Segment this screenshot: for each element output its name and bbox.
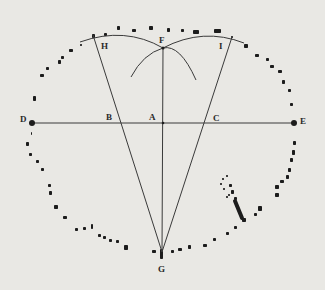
stone-marker	[255, 54, 259, 57]
label-i: I	[219, 41, 223, 51]
inner-stone-marker	[228, 194, 230, 196]
stone-marker	[116, 240, 119, 243]
stone-marker	[254, 213, 257, 216]
stone-circle-diagram: ABCDEFGHI	[0, 0, 325, 290]
stone-marker	[278, 70, 282, 73]
stone-marker	[226, 232, 229, 235]
stone-marker	[244, 44, 248, 48]
stone-marker	[91, 224, 93, 229]
stone-marker	[213, 238, 216, 241]
inner-stone-marker	[226, 175, 228, 177]
stone-marker	[275, 185, 279, 189]
stone-marker	[290, 158, 293, 162]
label-g: G	[158, 264, 165, 274]
stone-marker	[167, 28, 170, 32]
stone-marker	[63, 216, 67, 219]
stone-marker	[31, 132, 32, 135]
point-e-dot	[291, 120, 297, 126]
stone-marker	[214, 29, 221, 33]
stone-marker	[288, 89, 291, 92]
stone-marker	[286, 175, 289, 179]
stone-marker	[33, 96, 36, 101]
stone-marker	[290, 103, 293, 106]
arc-cross	[131, 48, 196, 80]
inner-stone-marker	[222, 178, 224, 180]
stone-marker	[54, 205, 58, 209]
point-f-dot	[162, 47, 165, 50]
stone-marker	[48, 184, 51, 187]
stone-marker	[293, 141, 296, 145]
stone-marker	[266, 58, 269, 61]
line-HG	[93, 35, 162, 252]
stone-marker	[117, 26, 120, 30]
stone-marker	[171, 250, 174, 253]
stone-marker	[275, 193, 279, 197]
stone-marker	[181, 29, 184, 32]
stone-marker	[58, 60, 61, 64]
stone-marker	[26, 142, 29, 146]
stone-marker	[292, 150, 295, 155]
stone-marker	[188, 245, 191, 249]
stone-marker	[41, 168, 44, 171]
stone-marker	[75, 228, 78, 231]
inner-stone-marker	[229, 184, 232, 187]
stone-marker	[282, 80, 285, 84]
stone-marker	[98, 234, 101, 237]
stone-marker	[109, 239, 112, 242]
label-c: C	[213, 113, 220, 123]
stone-marker	[270, 65, 274, 68]
line-IG	[162, 37, 232, 252]
stone-marker	[83, 227, 86, 230]
stone-marker	[258, 206, 262, 211]
point-a-dot	[162, 122, 165, 125]
stone-marker	[46, 67, 49, 70]
label-e: E	[300, 116, 306, 126]
label-b: B	[106, 112, 112, 122]
stone-marker	[40, 74, 44, 77]
stone-marker	[69, 49, 73, 52]
label-a: A	[149, 112, 156, 122]
long-stone-marker	[235, 201, 242, 218]
inner-stone-marker	[231, 190, 234, 194]
stone-marker	[152, 250, 156, 253]
stone-marker	[203, 244, 207, 247]
inner-stone-marker	[223, 188, 225, 190]
stone-marker	[149, 26, 153, 30]
stone-marker	[103, 236, 106, 239]
stone-marker	[234, 226, 237, 229]
stone-marker	[49, 191, 52, 195]
inner-stone-marker	[226, 196, 228, 198]
stone-marker	[178, 248, 182, 251]
label-d: D	[20, 114, 27, 124]
label-f: F	[159, 35, 165, 45]
stone-marker	[61, 56, 64, 59]
stone-marker	[280, 180, 284, 183]
label-h: H	[101, 41, 108, 51]
geometric-construction-svg: ABCDEFGHI	[0, 0, 325, 290]
stone-marker	[29, 153, 32, 156]
stone-marker	[124, 245, 128, 250]
line-FG	[162, 48, 163, 252]
stone-marker	[80, 44, 82, 46]
stone-marker	[193, 30, 199, 34]
stone-marker	[36, 160, 39, 163]
inner-stone-marker	[220, 183, 222, 185]
stone-marker	[288, 168, 291, 172]
point-d-dot	[29, 120, 35, 126]
stone-marker	[132, 29, 136, 32]
